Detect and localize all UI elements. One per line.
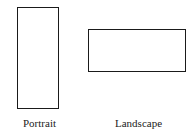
landscape-label: Landscape <box>115 117 162 129</box>
landscape-rectangle <box>88 29 186 72</box>
portrait-label: Portrait <box>23 117 56 129</box>
portrait-rectangle <box>17 7 59 109</box>
